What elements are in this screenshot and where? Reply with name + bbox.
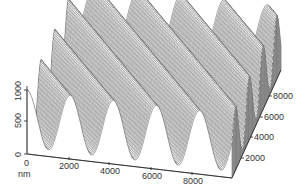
z-tick-label-1000: 1000 [13, 81, 23, 101]
y-tick-label-2000: 2000 [245, 153, 265, 163]
z-tick-label-0: 0 [13, 152, 23, 157]
x-tick-label-6000: 6000 [142, 171, 162, 181]
surface-traces [27, 0, 281, 178]
x-tick-label-0: 0 [24, 158, 29, 168]
x-tick-label-2000: 2000 [59, 161, 79, 171]
y-tick-label-6000: 6000 [264, 112, 284, 122]
unit-label: nm [18, 169, 31, 179]
x-tick-label-4000: 4000 [100, 166, 120, 176]
y-tick-label-8000: 8000 [273, 91, 293, 101]
surface-plot: 0 500 1000 0 2000 4000 6000 8000 nm 2000… [0, 0, 307, 192]
y-tick-label-4000: 4000 [254, 132, 274, 142]
z-tick-label-500: 500 [13, 113, 23, 128]
x-tick-label-8000: 8000 [183, 176, 203, 186]
